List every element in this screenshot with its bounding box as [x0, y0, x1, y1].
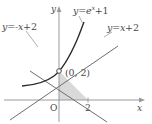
graph-figure: y=-x+2 y=ex+1 y=x+2 (0, 2) y x O 2	[0, 0, 152, 124]
y-axis-arrowhead	[57, 6, 62, 12]
intersection-point-marker	[57, 69, 62, 74]
x-axis-label: x	[137, 104, 142, 113]
label-exp-plus: +	[95, 5, 103, 16]
label-exp-eq: =	[78, 5, 86, 16]
line-y-equals-neg-x-plus-2	[30, 71, 107, 122]
label-line-x-plus-2: y=x+2	[107, 23, 139, 33]
plot-canvas	[0, 0, 152, 124]
leader-line-exp-label	[79, 16, 83, 23]
leader-line-neg-line-label	[26, 31, 38, 47]
y-axis-label: y	[51, 5, 56, 14]
label-exp-constant: 1	[103, 5, 109, 16]
label-pos-constant: 2	[133, 22, 139, 33]
origin-label: O	[50, 104, 57, 113]
label-curve-exp-x-plus-1: y=ex+1	[73, 5, 108, 16]
label-neg-eq: =	[7, 21, 15, 32]
annotation-intersection-point: (0, 2)	[65, 68, 90, 78]
x-axis-arrowhead	[139, 98, 145, 103]
line-y-equals-x-plus-2	[10, 46, 118, 120]
label-neg-constant: 2	[31, 21, 37, 32]
label-neg-plus: +	[23, 21, 31, 32]
x-tick-label-2: 2	[85, 104, 91, 113]
label-line-neg-x-plus-2: y=-x+2	[2, 22, 37, 32]
label-pos-eq: =	[112, 22, 120, 33]
label-neg-body: -x	[15, 21, 23, 32]
label-pos-plus: +	[125, 22, 133, 33]
